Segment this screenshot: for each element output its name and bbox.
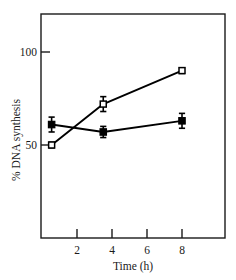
x-tick-label-8: 8 xyxy=(179,244,185,256)
x-tick-label-6: 6 xyxy=(144,244,150,256)
data-point-open-square xyxy=(179,68,185,74)
plot-background xyxy=(41,14,225,238)
data-point-open-square xyxy=(49,142,55,148)
x-tick-label-4: 4 xyxy=(109,244,115,256)
data-point-filled-square xyxy=(100,129,106,135)
y-tick-label-100: 100 xyxy=(20,46,38,58)
figure-root: 100 50 2 4 6 8 Time (h) % DNA synthesis xyxy=(0,0,236,280)
data-point-filled-square xyxy=(48,121,54,127)
y-axis-title: % DNA synthesis xyxy=(10,99,23,181)
x-axis-title: Time (h) xyxy=(113,260,153,273)
data-point-open-square xyxy=(100,101,106,107)
dna-synthesis-line-chart: 100 50 2 4 6 8 Time (h) % DNA synthesis xyxy=(0,0,236,280)
data-point-filled-square xyxy=(179,118,185,124)
x-tick-label-2: 2 xyxy=(74,244,80,256)
y-tick-label-50: 50 xyxy=(26,139,38,151)
